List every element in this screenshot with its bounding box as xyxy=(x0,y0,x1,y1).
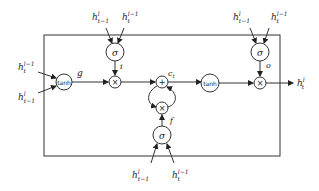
mul-f-label: × xyxy=(159,104,166,113)
input-f-right: hl−1t xyxy=(172,168,189,182)
output-h-t: hlt xyxy=(297,76,305,90)
edge-c-loop-right xyxy=(167,87,175,107)
lstm-diagram: tanh g hl−1t hlt−1 σ i × hlt−1 hl−1t + c… xyxy=(0,0,319,191)
input-f-left: hlt−1 xyxy=(132,168,149,182)
o-label: o xyxy=(266,61,271,70)
sigma-o-label: σ xyxy=(257,48,264,58)
c-t-label: ct xyxy=(168,69,175,79)
g-label: g xyxy=(77,68,83,78)
tanh-c-label: tanh xyxy=(203,80,217,87)
input-g-bottom: hlt−1 xyxy=(18,90,35,104)
mul-i-label: × xyxy=(112,78,119,87)
input-i-right: hl−1t xyxy=(122,10,139,24)
add-c-label: + xyxy=(159,78,166,87)
edge-f-right xyxy=(167,144,174,163)
input-o-right: hl−1t xyxy=(271,10,288,24)
input-g-top: hl−1t xyxy=(18,60,35,74)
edge-g-bottom xyxy=(38,86,56,93)
tanh-g-label: tanh xyxy=(57,79,71,86)
edge-c-loop-left xyxy=(149,86,157,107)
sigma-i-label: σ xyxy=(112,48,119,58)
sigma-f-label: σ xyxy=(159,131,166,141)
i-label: i xyxy=(120,62,123,71)
f-label: f xyxy=(169,116,175,125)
input-i-left: hlt−1 xyxy=(92,10,109,24)
edge-g-top xyxy=(38,72,56,78)
mul-o-label: × xyxy=(257,79,264,88)
input-o-left: hlt−1 xyxy=(233,10,250,24)
edge-f-left xyxy=(151,144,157,163)
